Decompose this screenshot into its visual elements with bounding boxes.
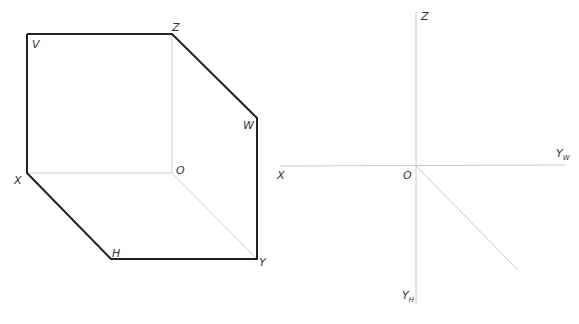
axis-label-x: X (277, 170, 285, 181)
axis-label-z: Z (421, 11, 429, 22)
axis-label-o: O (403, 170, 412, 181)
axis-label-yw: YW (556, 148, 570, 162)
label-y: Y (259, 257, 266, 268)
label-h: H (112, 248, 120, 259)
left-box-thin-lines (27, 34, 257, 259)
axis-label-yh: YH (402, 290, 414, 304)
label-z: Z (172, 22, 180, 33)
label-v: V (32, 39, 40, 50)
label-o: O (176, 165, 185, 176)
left-box-outline (27, 34, 257, 259)
right-axes (280, 12, 565, 305)
label-w: W (243, 120, 254, 131)
label-x: X (14, 175, 22, 186)
projection-diagram (0, 0, 579, 324)
